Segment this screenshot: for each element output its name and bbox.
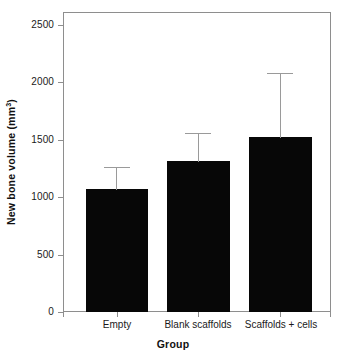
error-bar-cap-scaffolds-cells: [267, 73, 293, 74]
x-tick-mark-right-edge: [330, 312, 331, 317]
bar-scaffolds-cells[interactable]: [249, 137, 312, 312]
y-tick-label-1500: 1500: [31, 135, 54, 145]
y-tick-label-0: 0: [48, 307, 54, 317]
error-bar-cap-blank-scaffolds: [185, 133, 211, 134]
x-tick-mark-left-edge: [63, 312, 64, 317]
y-tick-mark-1000: [58, 197, 63, 198]
y-tick-mark-500: [58, 255, 63, 256]
error-bar-stem-empty: [116, 167, 117, 190]
x-tick-mark-scaffolds-cells: [280, 312, 281, 317]
error-bar-cap-empty: [104, 167, 130, 168]
error-bar-stem-scaffolds-cells: [280, 73, 281, 138]
bar-empty[interactable]: [86, 189, 148, 312]
y-tick-mark-1500: [58, 140, 63, 141]
x-axis-title: Group: [0, 338, 346, 350]
y-axis-title-tail: ): [5, 99, 17, 103]
bar-blank-scaffolds[interactable]: [167, 161, 230, 312]
y-tick-mark-2500: [58, 25, 63, 26]
y-axis-title-superscript: 3: [5, 103, 12, 107]
y-tick-label-1000: 1000: [31, 192, 54, 202]
error-bar-stem-blank-scaffolds: [198, 133, 199, 162]
bar-chart-figure: 0 500 1000 1500 2000 2500 New bone volum…: [0, 0, 346, 363]
x-tick-label-blank-scaffolds: Blank scaffolds: [152, 319, 244, 331]
y-axis-title-text: New bone volume (mm: [5, 107, 17, 225]
x-tick-label-scaffolds-cells: Scaffolds + cells: [235, 319, 327, 331]
y-tick-mark-2000: [58, 82, 63, 83]
y-tick-label-500: 500: [37, 250, 54, 260]
x-tick-label-empty: Empty: [77, 319, 157, 331]
y-tick-label-2000: 2000: [31, 77, 54, 87]
x-tick-mark-empty: [117, 312, 118, 317]
y-axis-title: New bone volume (mm3): [2, 12, 20, 312]
x-tick-mark-blank-scaffolds: [198, 312, 199, 317]
y-tick-label-2500: 2500: [31, 20, 54, 30]
